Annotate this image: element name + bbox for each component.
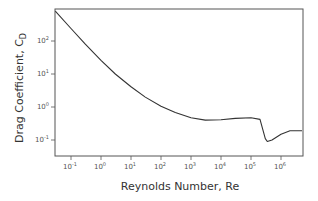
x-tick-label: 104 [214,161,226,171]
x-axis-title: Reynolds Number, Re [121,180,240,193]
x-tick-label: 100 [94,161,106,171]
x-axis-ticks: 10-1100101102103104105106 [63,156,286,171]
y-tick-label: 101 [37,68,49,78]
plot-border [55,9,303,156]
x-tick-label: 105 [244,161,256,171]
x-tick-label: 101 [124,161,136,171]
x-tick-label: 106 [274,161,286,171]
drag-curve-line [55,11,302,141]
drag-coefficient-chart: 10-1100101102 10-1100101102103104105106 … [0,0,318,201]
y-tick-label: 102 [37,35,49,45]
y-tick-label: 100 [37,101,49,111]
plot-frame [55,9,303,156]
x-tick-label: 103 [184,161,196,171]
x-tick-label: 10-1 [63,161,77,171]
y-axis-title: Drag Coefficient, CD [13,33,28,143]
y-tick-label: 10-1 [35,134,49,144]
y-axis-ticks: 10-1100101102 [35,35,55,144]
x-tick-label: 102 [154,161,166,171]
